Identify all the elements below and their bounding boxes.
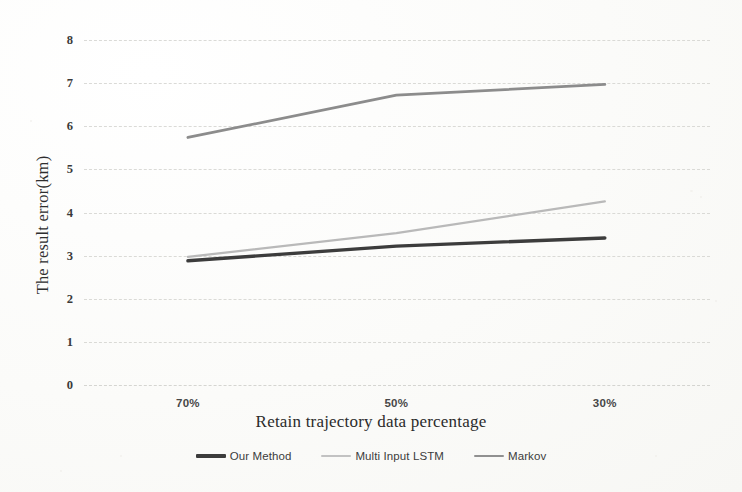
y-tick-label-6: 6 bbox=[67, 119, 73, 134]
legend-swatch-icon bbox=[321, 455, 351, 457]
legend-item-markov[interactable]: Markov bbox=[474, 450, 546, 462]
legend-item-multi-input-lstm[interactable]: Multi Input LSTM bbox=[321, 450, 444, 462]
legend-item-our-method[interactable]: Our Method bbox=[196, 450, 292, 462]
line-chart: The result error(km) 012345678 70%50%30%… bbox=[0, 0, 742, 492]
x-tick-label-70pct: 70% bbox=[176, 397, 200, 409]
legend-label: Our Method bbox=[230, 450, 292, 462]
legend-label: Markov bbox=[508, 450, 546, 462]
y-axis-title: The result error(km) bbox=[33, 130, 53, 320]
series-line-multi-input-lstm bbox=[188, 201, 605, 257]
y-tick-label-0: 0 bbox=[67, 378, 73, 393]
y-tick-label-4: 4 bbox=[67, 205, 73, 220]
legend-swatch-icon bbox=[196, 454, 226, 458]
series-line-markov bbox=[188, 84, 605, 137]
y-tick-label-8: 8 bbox=[67, 33, 73, 48]
y-tick-label-1: 1 bbox=[67, 334, 73, 349]
x-tick-label-50pct: 50% bbox=[384, 397, 408, 409]
plot-area: 012345678 70%50%30% bbox=[84, 40, 710, 385]
legend-swatch-icon bbox=[474, 455, 504, 457]
chart-legend: Our MethodMulti Input LSTMMarkov bbox=[0, 450, 742, 462]
y-tick-label-7: 7 bbox=[67, 76, 73, 91]
legend-label: Multi Input LSTM bbox=[355, 450, 444, 462]
series-lines bbox=[84, 40, 710, 385]
y-tick-label-3: 3 bbox=[67, 248, 73, 263]
y-tick-label-5: 5 bbox=[67, 162, 73, 177]
x-tick-label-30pct: 30% bbox=[593, 397, 617, 409]
y-tick-label-2: 2 bbox=[67, 291, 73, 306]
gridline-0 bbox=[84, 385, 710, 386]
x-axis-title: Retain trajectory data percentage bbox=[0, 412, 742, 432]
